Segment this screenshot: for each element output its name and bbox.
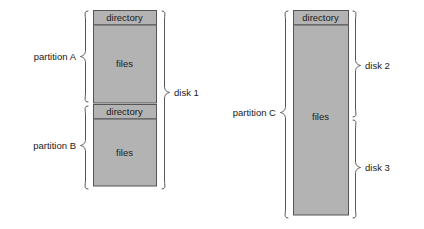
disk-2-label: disk 2	[365, 61, 420, 71]
disk-2-brace	[353, 11, 361, 117]
disk-3-brace	[353, 120, 361, 218]
partition-c-label: partition C	[196, 108, 276, 118]
diagram-canvas: directory files directory files director…	[0, 0, 424, 229]
partition-a-files-label: files	[93, 59, 156, 69]
disk-3-label: disk 3	[365, 163, 420, 173]
partition-c-directory-label: directory	[293, 13, 348, 23]
partition-b-brace	[81, 106, 89, 189]
partition-c-brace	[281, 11, 289, 218]
partition-a-brace	[81, 11, 89, 102]
partition-a-label: partition A	[0, 52, 76, 62]
partition-b-files-label: files	[93, 148, 156, 158]
partition-c-files-label: files	[293, 112, 348, 122]
disk-1-brace	[162, 11, 170, 189]
partition-b-label: partition B	[0, 141, 76, 151]
partition-b-directory-label: directory	[93, 107, 156, 117]
partition-a-directory-label: directory	[93, 13, 156, 23]
disk-1-label: disk 1	[174, 88, 234, 98]
